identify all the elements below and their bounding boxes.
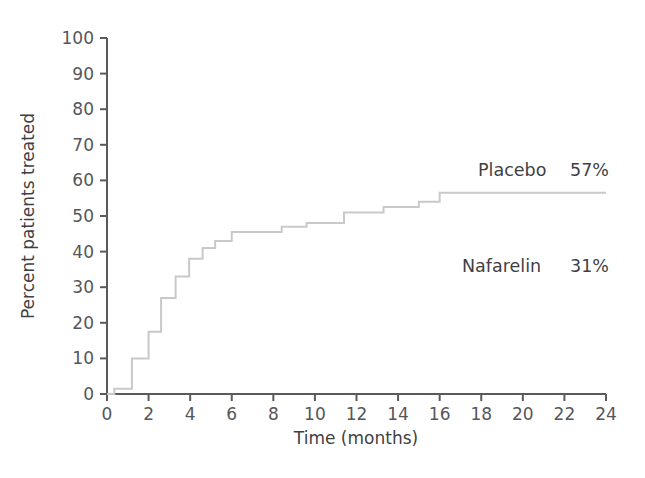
y-axis-tick-label: 70 bbox=[72, 135, 94, 155]
y-axis-title: Percent patients treated bbox=[18, 113, 38, 319]
x-axis-tick-label: 2 bbox=[143, 404, 154, 424]
x-axis-title: Time (months) bbox=[293, 428, 418, 448]
y-axis-tick-label: 60 bbox=[72, 170, 94, 190]
y-axis-ticks: 0102030405060708090100 bbox=[62, 28, 107, 404]
nafarelin-series-value: 31% bbox=[570, 256, 609, 276]
y-axis-tick-label: 30 bbox=[72, 277, 94, 297]
x-axis-tick-label: 20 bbox=[512, 404, 534, 424]
chart-figure: 0102030405060708090100 02468101214161820… bbox=[0, 0, 645, 478]
y-axis-tick-label: 50 bbox=[72, 206, 94, 226]
y-axis-tick-label: 0 bbox=[83, 384, 94, 404]
nafarelin-series-label: Nafarelin bbox=[462, 256, 541, 276]
x-axis-tick-label: 8 bbox=[268, 404, 279, 424]
y-axis-tick-label: 40 bbox=[72, 242, 94, 262]
placebo-series-value: 57% bbox=[570, 160, 609, 180]
x-axis-tick-label: 4 bbox=[185, 404, 196, 424]
y-axis-tick-label: 80 bbox=[72, 99, 94, 119]
placebo-series-label: Placebo bbox=[478, 160, 546, 180]
x-axis-tick-label: 10 bbox=[304, 404, 326, 424]
x-axis-tick-label: 6 bbox=[226, 404, 237, 424]
x-axis-ticks: 024681012141618202224 bbox=[102, 394, 617, 424]
x-axis-tick-label: 24 bbox=[595, 404, 617, 424]
x-axis-tick-label: 22 bbox=[554, 404, 576, 424]
x-axis-tick-label: 0 bbox=[102, 404, 113, 424]
x-axis-tick-label: 14 bbox=[387, 404, 409, 424]
x-axis-tick-label: 12 bbox=[346, 404, 368, 424]
y-axis-tick-label: 20 bbox=[72, 313, 94, 333]
y-axis-tick-label: 10 bbox=[72, 348, 94, 368]
chart-plot-area: 0102030405060708090100 02468101214161820… bbox=[0, 0, 645, 478]
placebo-step-curve bbox=[107, 193, 606, 394]
y-axis-tick-label: 90 bbox=[72, 64, 94, 84]
x-axis-tick-label: 18 bbox=[470, 404, 492, 424]
x-axis-tick-label: 16 bbox=[429, 404, 451, 424]
y-axis-tick-label: 100 bbox=[62, 28, 94, 48]
